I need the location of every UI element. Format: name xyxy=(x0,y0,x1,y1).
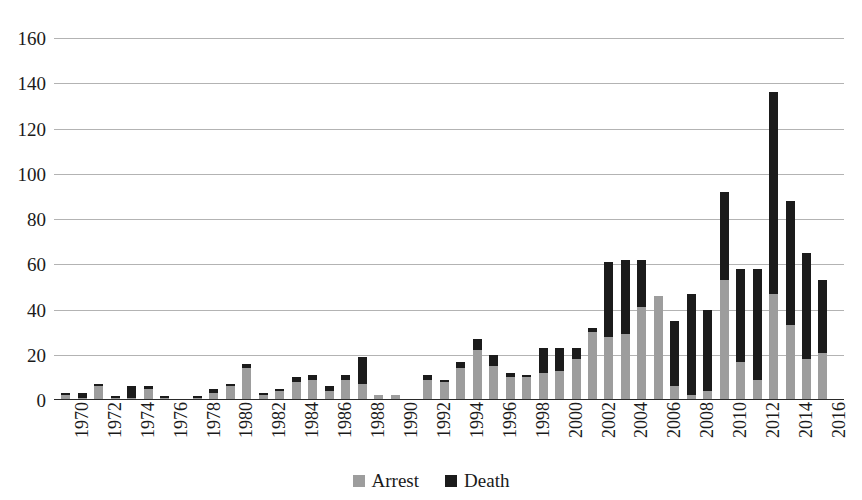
bar-column xyxy=(769,92,778,400)
bar-column xyxy=(720,192,729,400)
bar-column xyxy=(637,260,646,400)
bar-column xyxy=(423,375,432,400)
bar-segment-arrest xyxy=(506,377,515,400)
y-axis-tick-label: 140 xyxy=(18,74,47,93)
bar-column xyxy=(687,294,696,400)
x-axis-labels: 1970197219741976197819801982198419861988… xyxy=(54,402,844,470)
x-axis-tick-label: 1984 xyxy=(303,402,321,438)
bar-segment-arrest xyxy=(786,325,795,400)
bar-column xyxy=(440,380,449,400)
bar-segment-arrest xyxy=(769,294,778,400)
bar-column xyxy=(555,348,564,400)
bar-column xyxy=(506,373,515,400)
x-axis-tick-label: 2004 xyxy=(632,402,650,438)
bar-segment-arrest xyxy=(621,334,630,400)
bar-segment-death xyxy=(786,201,795,325)
bar-segment-arrest xyxy=(440,382,449,400)
bar-column xyxy=(308,375,317,400)
x-axis-tick-label: 2016 xyxy=(830,402,848,438)
y-axis-tick-label: 0 xyxy=(37,391,47,410)
bar-segment-arrest xyxy=(572,359,581,400)
chart-legend: ArrestDeath xyxy=(0,470,862,492)
bar-column xyxy=(522,375,531,400)
x-axis-tick-label: 1972 xyxy=(106,402,124,438)
legend-item[interactable]: Death xyxy=(445,470,509,492)
y-axis-tick-label: 120 xyxy=(18,119,47,138)
bar-segment-arrest xyxy=(341,380,350,400)
stacked-bar-chart: 020406080100120140160 197019721974197619… xyxy=(0,0,862,500)
bar-column xyxy=(358,357,367,400)
x-axis-tick-label: 2014 xyxy=(797,402,815,438)
x-axis-line xyxy=(54,399,844,401)
x-axis-tick-label: 1982 xyxy=(270,402,288,438)
bar-column xyxy=(818,280,827,400)
x-axis-tick-label: 1980 xyxy=(237,402,255,438)
y-axis-tick-label: 160 xyxy=(18,29,47,48)
bar-column xyxy=(572,348,581,400)
bar-segment-arrest xyxy=(522,377,531,400)
bar-segment-arrest xyxy=(555,371,564,400)
bar-column xyxy=(736,269,745,400)
legend-item[interactable]: Arrest xyxy=(353,470,419,492)
x-axis-tick-label: 1970 xyxy=(73,402,91,438)
bar-column xyxy=(654,296,663,400)
x-axis-tick-label: 1988 xyxy=(369,402,387,438)
bar-column xyxy=(292,377,301,400)
bar-segment-arrest xyxy=(654,296,663,400)
bar-column xyxy=(670,321,679,400)
bar-segment-death xyxy=(539,348,548,373)
bar-segment-death xyxy=(720,192,729,280)
bar-column xyxy=(786,201,795,400)
x-axis-tick-label: 1986 xyxy=(336,402,354,438)
x-axis-tick-label: 2002 xyxy=(600,402,618,438)
bar-column xyxy=(341,375,350,400)
bar-column xyxy=(456,362,465,400)
bar-segment-arrest xyxy=(720,280,729,400)
x-axis-tick-label: 2008 xyxy=(698,402,716,438)
bar-segment-death xyxy=(769,92,778,293)
bar-segment-arrest xyxy=(753,380,762,400)
bar-segment-death xyxy=(456,362,465,369)
bar-segment-arrest xyxy=(736,362,745,400)
x-axis-tick-label: 1994 xyxy=(468,402,486,438)
x-axis-tick-label: 1976 xyxy=(172,402,190,438)
x-axis-tick-label: 1990 xyxy=(402,402,420,438)
bar-column xyxy=(539,348,548,400)
bar-segment-arrest xyxy=(604,337,613,400)
bar-segment-death xyxy=(753,269,762,380)
bar-segment-death xyxy=(555,348,564,371)
bar-segment-arrest xyxy=(637,307,646,400)
bar-segment-arrest xyxy=(539,373,548,400)
bar-segment-arrest xyxy=(489,366,498,400)
bar-series-group xyxy=(54,38,844,400)
bar-segment-arrest xyxy=(308,380,317,400)
legend-label: Death xyxy=(464,470,509,492)
bar-column xyxy=(604,262,613,400)
bar-segment-arrest xyxy=(423,380,432,400)
x-axis-tick-label: 2006 xyxy=(665,402,683,438)
y-axis-tick-label: 40 xyxy=(27,300,46,319)
x-axis-tick-label: 1998 xyxy=(534,402,552,438)
bar-segment-arrest xyxy=(818,353,827,401)
y-axis-tick-label: 20 xyxy=(27,345,46,364)
bar-segment-death xyxy=(687,294,696,396)
legend-label: Arrest xyxy=(372,470,419,492)
x-axis-tick-label: 1992 xyxy=(435,402,453,438)
x-axis-tick-label: 1978 xyxy=(205,402,223,438)
bar-segment-death xyxy=(736,269,745,362)
y-axis-tick-label: 60 xyxy=(27,255,46,274)
x-axis-tick-label: 1974 xyxy=(139,402,157,438)
bar-segment-arrest xyxy=(456,368,465,400)
bar-segment-death xyxy=(637,260,646,308)
bar-column xyxy=(242,364,251,400)
bar-segment-death xyxy=(818,280,827,352)
bar-segment-death xyxy=(127,386,136,397)
bar-segment-arrest xyxy=(473,350,482,400)
bar-segment-arrest xyxy=(588,332,597,400)
bar-segment-death xyxy=(670,321,679,387)
bar-segment-death xyxy=(621,260,630,335)
bar-segment-death xyxy=(802,253,811,359)
x-axis-tick-label: 2000 xyxy=(567,402,585,438)
x-axis-tick-label: 1996 xyxy=(501,402,519,438)
legend-swatch-icon xyxy=(353,475,365,487)
